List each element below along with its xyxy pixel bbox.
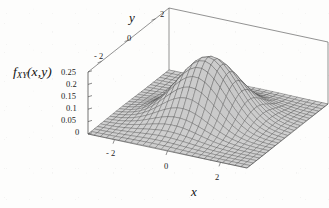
surface-mesh bbox=[88, 56, 328, 168]
z-tick-label-0.1: 0.1 bbox=[66, 103, 77, 113]
z-axis-title: fXY(x,y) bbox=[13, 64, 52, 80]
x-tick-label-2: 2 bbox=[215, 172, 219, 182]
z-tick-label-0: 0 bbox=[75, 127, 79, 137]
y-axis-title: y bbox=[129, 10, 135, 26]
x-tick-label--2: - 2 bbox=[106, 148, 115, 158]
surface-plot-svg bbox=[0, 0, 329, 208]
y-tick-label--2: - 2 bbox=[94, 51, 103, 61]
z-tick-label-0.2: 0.2 bbox=[66, 79, 77, 89]
y-tick-label-2: 2 bbox=[160, 9, 164, 19]
y-tick-label-0: 0 bbox=[127, 33, 131, 43]
x-axis-title: x bbox=[191, 184, 197, 200]
x-tick-label-0: 0 bbox=[164, 161, 168, 171]
z-tick-label-0.05: 0.05 bbox=[61, 115, 76, 125]
z-tick-label-0.25: 0.25 bbox=[61, 67, 76, 77]
z-axis-title-subscript: XY bbox=[17, 70, 27, 80]
z-tick-label-0.15: 0.15 bbox=[61, 91, 76, 101]
z-axis-title-args: (x,y) bbox=[27, 64, 52, 79]
figure-canvas: fXY(x,y) 0.25 0.2 0.15 0.1 0.05 0 - 2 0 … bbox=[0, 0, 329, 208]
